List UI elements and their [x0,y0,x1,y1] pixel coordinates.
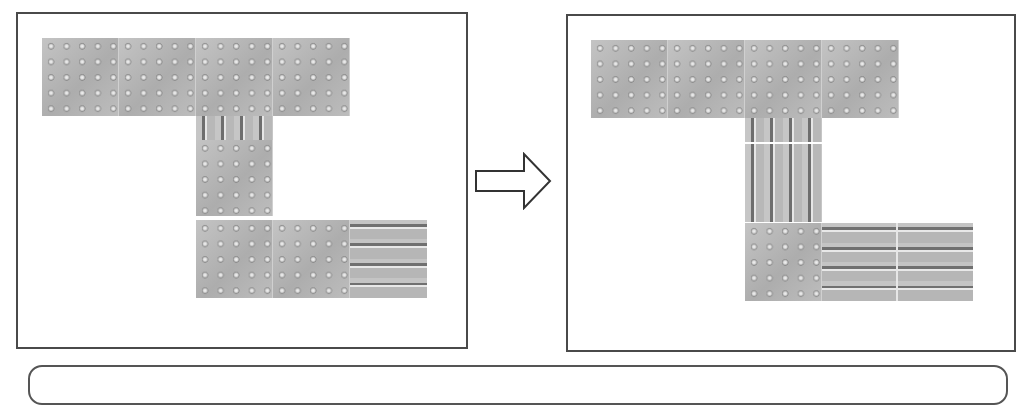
vertical-line-tile [745,144,822,222]
dot-tile [273,220,350,298]
dot-tile [273,38,350,116]
caption-box [28,365,1008,405]
before-panel [16,12,468,349]
vertical-line-strip-tile [745,118,822,142]
dot-tile [196,220,273,298]
dot-tile [196,140,273,216]
dot-tile [668,40,745,118]
dot-tile [745,223,822,301]
vertical-line-strip-tile [196,116,273,140]
after-panel [566,14,1016,352]
horizontal-line-tile [822,223,896,301]
dot-tile [119,38,196,116]
dot-tile [591,40,668,118]
horizontal-line-tile [898,223,973,301]
dot-tile [42,38,119,116]
dot-tile [196,38,273,116]
arrow-right-icon [474,152,554,210]
dot-tile [822,40,899,118]
dot-tile [745,40,822,118]
horizontal-line-tile [350,220,427,298]
